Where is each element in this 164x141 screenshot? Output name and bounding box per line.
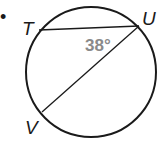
point-label-t: T <box>22 18 35 39</box>
chord-tu <box>39 26 139 30</box>
point-label-v: V <box>25 117 40 138</box>
angle-label: 38° <box>85 36 111 55</box>
bullet: • <box>0 7 6 27</box>
diagram: • T U V 38° <box>0 0 164 141</box>
point-label-u: U <box>142 8 156 29</box>
